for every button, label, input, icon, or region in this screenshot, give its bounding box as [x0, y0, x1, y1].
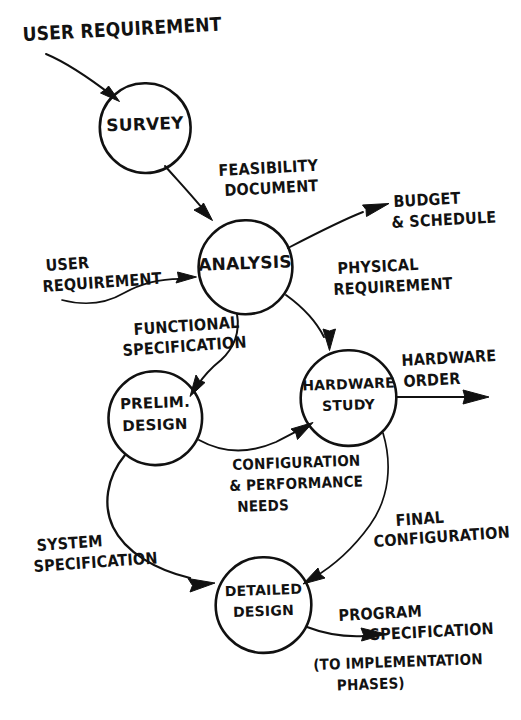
- node-label-prelim-design-line2: DESIGN: [108, 416, 202, 435]
- flow-label-to-implementation-line2: PHASES): [322, 676, 405, 695]
- edge-analysis-to-budget: [288, 204, 389, 249]
- flow-label-budget-schedule-line1: BUDGET: [393, 190, 461, 210]
- edge-prelim-to-detailed: [107, 455, 215, 592]
- flow-label-user-requirement-left-line1: USER: [45, 255, 90, 275]
- edge-prelim-to-hardware: [199, 423, 313, 451]
- flow-label-config-performance-line3: NEEDS: [237, 498, 289, 516]
- node-label-prelim-design-line1: PRELIM.: [108, 394, 202, 413]
- flow-label-hardware-order-line2: ORDER: [403, 371, 461, 391]
- edge-analysis-to-hardware: [286, 295, 336, 351]
- node-label-survey: SURVEY: [105, 115, 186, 136]
- arrowhead-survey-analysis: [194, 203, 213, 221]
- node-label-analysis: ANALYSIS: [195, 253, 296, 274]
- arrowhead-prelim-hardware: [291, 423, 313, 440]
- edge-user-req-to-survey: [46, 54, 120, 102]
- arrowhead-analysis-hardware: [323, 329, 336, 351]
- diagram-canvas: SURVEY ANALYSIS PRELIM. DESIGN HARDWARE …: [0, 0, 521, 720]
- edge-hardware-to-order: [396, 390, 489, 404]
- arrowhead-user-req-analysis: [176, 272, 197, 283]
- edge-survey-to-analysis: [165, 166, 213, 221]
- arrowhead-hardware-order: [463, 390, 489, 404]
- arrowhead-analysis-budget: [363, 204, 390, 217]
